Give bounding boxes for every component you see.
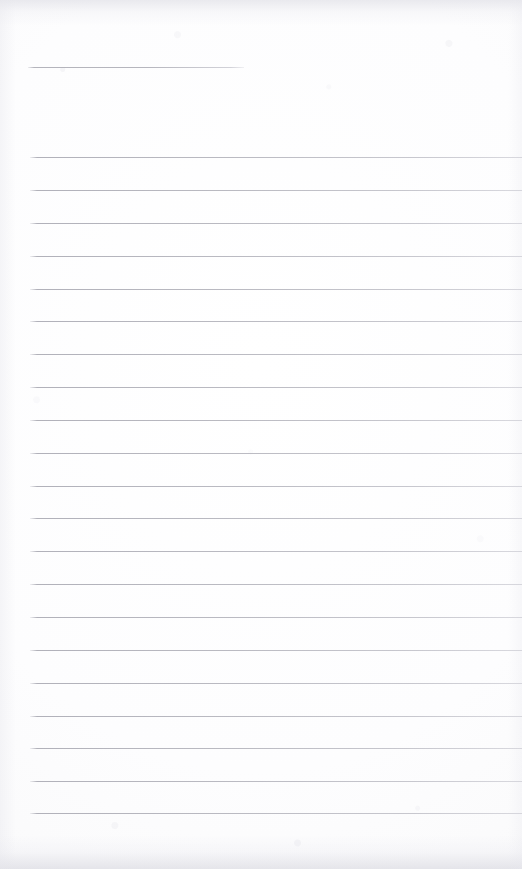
lined-paper-page	[0, 0, 522, 869]
rule-line	[30, 486, 522, 487]
rule-line	[30, 157, 522, 158]
rule-line	[30, 387, 522, 388]
paper-grain-texture	[0, 0, 522, 869]
rule-line	[30, 453, 522, 454]
rule-line	[30, 716, 522, 717]
page-bottom-edge-shadow	[0, 835, 522, 869]
rule-line	[30, 256, 522, 257]
rule-line	[30, 551, 522, 552]
page-top-edge-shadow	[0, 0, 522, 26]
rule-line	[30, 748, 522, 749]
rule-line	[30, 190, 522, 191]
rule-line	[30, 289, 522, 290]
rule-line	[30, 354, 522, 355]
rule-line	[30, 584, 522, 585]
page-right-edge-shadow	[508, 0, 522, 869]
rule-line	[30, 650, 522, 651]
rule-line	[30, 683, 522, 684]
rule-line	[30, 813, 522, 814]
rule-line	[30, 321, 522, 322]
rule-line	[30, 518, 522, 519]
rule-line	[30, 420, 522, 421]
rule-line	[30, 223, 522, 224]
page-left-edge-shadow	[0, 0, 16, 869]
rule-line	[30, 617, 522, 618]
header-rule	[28, 67, 244, 68]
rule-line	[30, 781, 522, 782]
